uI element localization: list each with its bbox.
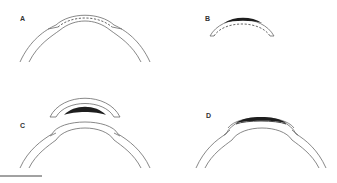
panel-d-limbus-left xyxy=(224,130,230,135)
panel-b: B xyxy=(205,15,274,36)
panel-d-inner-surface xyxy=(205,128,319,168)
panel-a-outer-surface xyxy=(20,15,150,62)
panel-b-cut-line xyxy=(214,24,270,36)
panel-a-label: A xyxy=(20,15,25,22)
panel-a-inner-surface xyxy=(29,21,141,62)
panel-d: D xyxy=(196,112,326,168)
panel-d-outer-surface xyxy=(196,118,326,169)
panel-d-label: D xyxy=(206,112,211,119)
panel-b-cap-outer xyxy=(210,20,274,37)
figure-canvas: A B C D xyxy=(0,0,337,183)
panel-b-label: B xyxy=(205,15,210,22)
panel-c: C xyxy=(20,98,150,168)
panel-c-label: C xyxy=(20,122,25,129)
panel-c-bed-inner xyxy=(29,128,141,168)
panel-d-limbus-right xyxy=(292,130,298,135)
panel-c-lenticule xyxy=(64,107,106,115)
panel-a: A xyxy=(20,15,150,62)
panel-c-bed-outer xyxy=(20,122,150,168)
